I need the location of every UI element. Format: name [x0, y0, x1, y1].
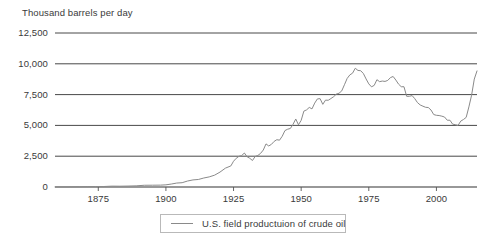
x-axis-tick-label: 1975	[344, 193, 394, 204]
y-axis-tick-label: 2,500	[2, 150, 48, 161]
chart-container: Thousand barrels per day U.S. field prod…	[0, 0, 493, 241]
chart-legend: U.S. field productuion of crude oil	[160, 214, 346, 233]
plot-area	[0, 0, 493, 241]
y-axis-tick-label: 5,000	[2, 119, 48, 130]
x-axis-tick-label: 1875	[73, 193, 123, 204]
y-axis-tick-label: 12,500	[2, 27, 48, 38]
x-axis-tick-label: 1925	[209, 193, 259, 204]
legend-entry-label: U.S. field productuion of crude oil	[202, 218, 345, 229]
y-axis-tick-label: 0	[2, 181, 48, 192]
x-axis-tick-label: 1950	[276, 193, 326, 204]
x-axis-tick-label: 1900	[141, 193, 191, 204]
x-axis-tick-label: 2000	[411, 193, 461, 204]
y-axis-tick-label: 7,500	[2, 89, 48, 100]
chart-plot-svg	[0, 0, 493, 241]
y-axis-tick-label: 10,000	[2, 58, 48, 69]
legend-line-swatch	[171, 223, 193, 224]
data-line-us-crude-oil	[55, 68, 477, 187]
